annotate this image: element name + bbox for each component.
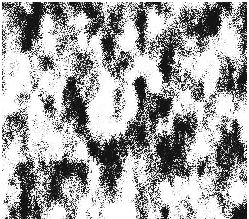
speckle-texture-image	[0, 0, 249, 219]
texture-viewport	[0, 0, 249, 219]
